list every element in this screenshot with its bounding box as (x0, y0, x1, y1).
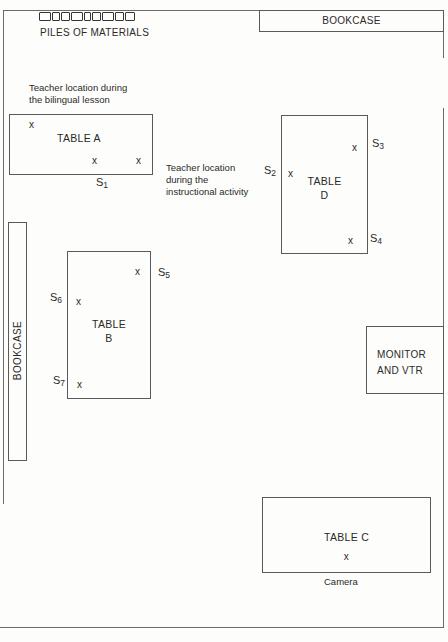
student-label-s1: S1 (96, 176, 108, 188)
student-label-s5: S5 (158, 266, 170, 278)
monitor-and-vtr: MONITOR AND VTR (366, 326, 444, 394)
table-b-label-line1: TABLE (68, 317, 150, 332)
wall-bottom (0, 627, 444, 628)
student-marker-s1: x (136, 155, 141, 166)
teacher-location-bilingual-label: Teacher location during the bilingual le… (29, 82, 127, 106)
student-label-s6: S6 (50, 291, 62, 303)
student-marker-s2: x (288, 168, 293, 179)
table-d: TABLE D (281, 115, 368, 254)
teacher-marker-bilingual: x (29, 119, 34, 130)
student-marker-table-a: x (92, 155, 97, 166)
piles-of-materials-label: PILES OF MATERIALS (40, 27, 149, 38)
student-label-s3: S3 (372, 137, 384, 149)
student-marker-s5: x (135, 266, 140, 277)
table-d-label-line1: TABLE (282, 174, 367, 189)
wall-left (3, 10, 4, 504)
bookcase-left-label: BOOKCASE (12, 319, 23, 383)
monitor-label: MONITOR AND VTR (377, 347, 426, 379)
table-a-label: TABLE A (57, 132, 101, 144)
student-marker-s7: x (77, 379, 82, 390)
table-c-label: TABLE C (263, 530, 430, 545)
bookcase-top-label: BOOKCASE (260, 13, 443, 28)
student-label-s2: S2 (264, 164, 276, 176)
table-d-label-line2: D (282, 188, 367, 203)
student-label-s4: S4 (370, 232, 382, 244)
student-marker-s3: x (352, 142, 357, 153)
piles-of-materials-icon (39, 12, 135, 21)
student-marker-s6: x (76, 296, 81, 307)
table-b-label-line2: B (68, 331, 150, 346)
student-label-s7: S7 (53, 374, 65, 386)
bookcase-top: BOOKCASE (259, 10, 444, 32)
teacher-location-instructional-label: Teacher location during the instructiona… (166, 162, 248, 198)
student-marker-s4: x (348, 235, 353, 246)
camera-marker: x (263, 549, 430, 564)
camera-label: Camera (324, 576, 358, 587)
table-c: TABLE C x (262, 497, 431, 573)
